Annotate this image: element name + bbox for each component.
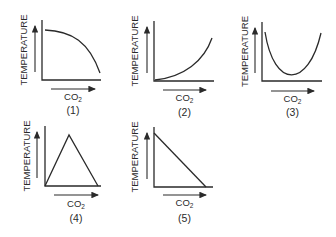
axes [154,127,213,187]
curve-u-shaped [265,32,321,75]
y-axis-label: TEMPERATURE [129,121,140,192]
y-axis-label: TEMPERATURE [18,14,29,85]
curve-convex-increasing [155,38,212,80]
subscript: 2 [81,203,85,210]
curve-peaked [45,135,98,186]
x-axis-label: CO2 [176,92,194,104]
graph-panel-2: TEMPERATURECO2(2) [129,15,214,118]
curve-linear-decreasing [154,133,206,187]
subscript: 2 [298,98,302,105]
x-axis-label: CO2 [64,91,82,103]
subscript: 2 [190,97,194,104]
graph-panel-5: TEMPERATURECO2(5) [129,121,213,224]
x-axis-label: CO2 [176,197,194,209]
x-axis-label: CO2 [284,93,302,105]
curve-concave-decreasing [45,30,100,73]
x-axis-label: CO2 [67,198,85,210]
panel-caption: (5) [178,212,191,224]
graph-panel-1: TEMPERATURECO2(1) [18,14,101,116]
panel-caption: (2) [178,106,191,118]
panel-caption: (4) [70,212,83,224]
subscript: 2 [190,202,194,209]
y-axis-label: TEMPERATURE [21,120,32,191]
panel-caption: (3) [286,106,299,118]
axes [42,20,101,80]
graph-panel-4: TEMPERATURECO2(4) [21,120,101,224]
y-axis-label: TEMPERATURE [129,15,140,86]
panel-caption: (1) [67,104,80,116]
axes [262,22,322,81]
co2-temperature-graphs: TEMPERATURECO2(1)TEMPERATURECO2(2)TEMPER… [0,0,336,237]
graph-panel-3: TEMPERATURECO2(3) [239,16,322,118]
subscript: 2 [78,96,82,103]
y-axis-label: TEMPERATURE [239,16,250,87]
